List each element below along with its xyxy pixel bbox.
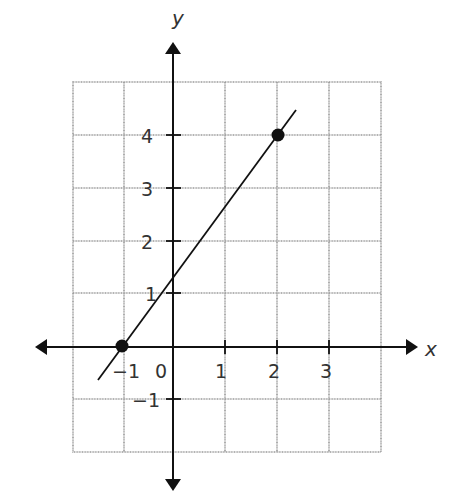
axes xyxy=(35,42,418,491)
y-axis-label: y xyxy=(171,6,185,30)
x-tick-label-neg1: −1 xyxy=(112,360,140,382)
grid xyxy=(73,82,381,452)
x-tick-label-2: 2 xyxy=(268,360,280,382)
x-tick-label-3: 3 xyxy=(320,360,332,382)
y-axis-down-arrow-icon xyxy=(165,479,181,491)
y-tick-label-2: 2 xyxy=(141,231,153,253)
y-tick-label-3: 3 xyxy=(141,178,153,200)
x-tick-label-0: 0 xyxy=(155,360,167,382)
y-tick-label-1: 1 xyxy=(145,283,157,305)
x-tick-label-1: 1 xyxy=(215,360,227,382)
x-axis-label: x xyxy=(424,337,437,361)
y-axis-up-arrow-icon xyxy=(165,42,181,54)
x-axis-left-arrow-icon xyxy=(35,339,47,355)
graphed-line xyxy=(98,110,296,380)
grid-border xyxy=(73,82,381,452)
coordinate-plane: y x −1 0 1 2 3 4 3 2 1 −1 xyxy=(0,0,463,504)
ticks xyxy=(166,135,329,399)
point-neg1-0 xyxy=(116,340,129,353)
point-2-4 xyxy=(272,129,285,142)
y-tick-label-4: 4 xyxy=(141,125,153,147)
y-tick-label-neg1: −1 xyxy=(132,389,160,411)
x-axis-right-arrow-icon xyxy=(406,339,418,355)
